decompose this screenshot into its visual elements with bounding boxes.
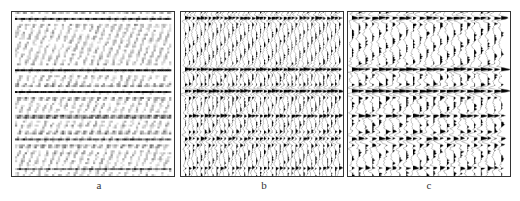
panel-label-b: b <box>254 179 274 191</box>
seismic-panel-b <box>180 11 344 177</box>
panel-label-a: a <box>89 179 109 191</box>
seismic-panel-a <box>11 11 175 177</box>
seismic-section-a <box>12 12 174 176</box>
seismic-section-c <box>348 12 510 176</box>
seismic-section-b <box>181 12 343 176</box>
seismic-panel-c <box>347 11 511 177</box>
panel-label-c: c <box>419 179 439 191</box>
